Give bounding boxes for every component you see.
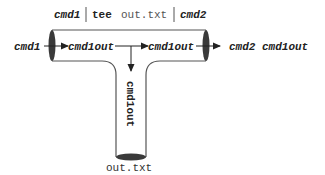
svg-text:cmd1: cmd1 xyxy=(54,9,80,21)
svg-text:tee out.txt: tee out.txt xyxy=(92,9,167,21)
tee-pipe-diagram: cmd1 tee out.txt cmd2 cmd1 cmd1out cmd1o… xyxy=(0,0,325,175)
bottom-pipe-cap xyxy=(116,154,146,161)
file-label: out.txt xyxy=(106,162,152,174)
title-tee: tee xyxy=(92,9,112,21)
input-label: cmd1 xyxy=(14,41,40,53)
stem-label: cmd1out xyxy=(124,81,136,127)
inner-right-label: cmd1out xyxy=(148,41,194,53)
inner-left-label: cmd1out xyxy=(68,41,114,53)
svg-text:cmd2: cmd2 xyxy=(180,9,207,21)
title-cmd2: cmd2 xyxy=(180,9,207,21)
output-label: cmd2 cmd1out xyxy=(229,41,308,53)
title-cmd1: cmd1 xyxy=(54,9,80,21)
title-file: out.txt xyxy=(121,9,167,21)
